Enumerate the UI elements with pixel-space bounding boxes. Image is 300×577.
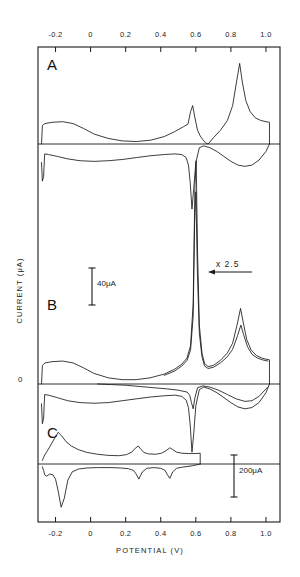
x-tick-label-bottom: 0.4 xyxy=(155,529,166,538)
multiplier-label: x 2.5 xyxy=(216,259,239,269)
x-tick-label-top: 0.4 xyxy=(155,30,166,39)
scalebar-label-c: 200μA xyxy=(239,466,262,475)
x-axis-title: POTENTIAL (V) xyxy=(0,546,300,555)
x-tick-label-top: 0.8 xyxy=(225,30,236,39)
panel-baselines xyxy=(38,144,280,464)
y-axis-title: CURRENT (μA) xyxy=(15,236,24,346)
voltammogram-traces xyxy=(42,63,270,507)
panel-letter-b: B xyxy=(47,296,57,313)
scale-bars xyxy=(89,268,238,497)
x-tick-label-bottom: 0 xyxy=(88,529,92,538)
multiplier-arrow xyxy=(208,269,252,274)
panel-letter-c: C xyxy=(47,424,58,441)
x-tick-label-top: 0 xyxy=(88,30,92,39)
panel-letter-a: A xyxy=(47,56,57,73)
x-tick-label-bottom: 0.8 xyxy=(225,529,236,538)
x-tick-label-top: 0.2 xyxy=(120,30,131,39)
cyclic-voltammetry-figure: -0.2 0 0.2 0.4 0.6 0.8 1.0 -0.2 0 0.2 0.… xyxy=(0,0,300,577)
plot-canvas xyxy=(0,0,300,577)
x-tick-label-top: -0.2 xyxy=(48,30,62,39)
plot-frame xyxy=(38,47,280,522)
x-tick-label-bottom: 0.6 xyxy=(190,529,201,538)
x-tick-label-top: 0.6 xyxy=(190,30,201,39)
axis-ticks xyxy=(56,47,266,522)
y-zero-label: 0 xyxy=(18,375,22,384)
x-tick-label-bottom: 0.2 xyxy=(120,529,131,538)
x-tick-label-bottom: 1.0 xyxy=(260,529,271,538)
x-tick-label-top: 1.0 xyxy=(260,30,271,39)
x-tick-label-bottom: -0.2 xyxy=(48,529,62,538)
scalebar-label-ab: 40μA xyxy=(97,279,116,288)
